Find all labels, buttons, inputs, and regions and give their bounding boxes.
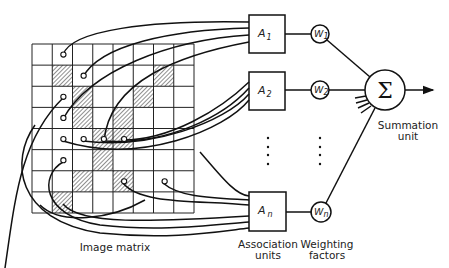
hatched-cell [73,107,93,128]
hatched-cell [93,150,113,171]
hatched-cell [113,107,133,128]
svg-text:W1: W1 [314,28,329,41]
additional-input-ticks [355,96,371,113]
connection-curve [5,98,63,268]
ellipsis-weights [319,137,321,165]
sigma-symbol: Σ [377,78,393,103]
connection-curve [63,204,249,220]
sample-point [61,158,66,163]
weighting-factor-2: W2 [311,81,329,99]
svg-text:Wn: Wn [314,206,328,219]
sample-point [81,73,86,78]
sample-point [61,115,66,120]
svg-text:An: An [257,204,273,219]
svg-text:A2: A2 [257,84,272,99]
perceptron-diagram: A1 A2 An W1 W2 Wn Σ [0,0,449,268]
connection-curve [200,152,249,196]
svg-text:W2: W2 [314,84,329,97]
weighting-factor-1: W1 [311,25,329,43]
weighting-factor-n: Wn [311,202,331,222]
hatched-cell [52,65,72,86]
sample-point [61,94,66,99]
association-units-label-2: units [255,249,281,261]
hatched-cell [73,86,93,107]
sample-point [61,52,66,57]
sample-point [122,179,127,184]
hatched-cell [73,171,93,192]
association-unit-n: An [249,192,286,231]
hatched-cell [133,86,153,107]
summation-unit-label-2: unit [398,130,418,142]
summation-unit: Σ [365,70,405,110]
sample-point [122,136,127,141]
ellipsis-association [267,137,269,165]
association-unit-1: A1 [249,15,285,53]
sample-point [81,136,86,141]
sample-point [101,136,106,141]
image-matrix-label: Image matrix [80,241,150,253]
svg-text:A1: A1 [257,27,272,42]
association-unit-2: A2 [249,72,285,110]
sample-point [61,136,66,141]
weighting-factors-label-2: factors [309,249,345,261]
sample-point [162,179,167,184]
